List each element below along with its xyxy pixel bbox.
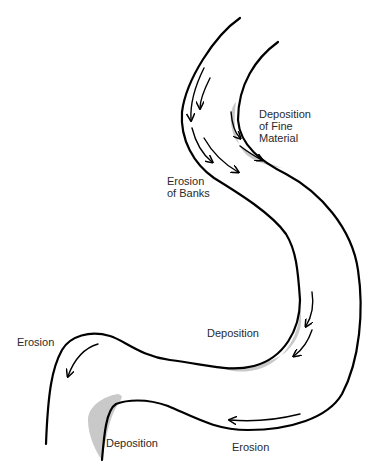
label-deposition-bottom: Deposition [106,437,158,449]
river-bank-right [102,42,361,460]
flow-arrow [230,414,300,421]
river-meander-diagram: Deposition of Fine Material Erosion of B… [0,0,374,475]
label-erosion-bottom: Erosion [232,441,269,453]
river-bank-left [46,18,300,444]
flow-arrow [204,138,238,172]
river-channel-drawing [0,0,374,475]
label-deposition-fine-material: Deposition of Fine Material [259,108,311,144]
flow-arrow [306,292,313,326]
label-erosion-of-banks: Erosion of Banks [167,175,210,199]
label-erosion-left: Erosion [17,336,54,348]
flow-arrow [200,78,210,108]
label-deposition-middle: Deposition [207,327,259,339]
flow-arrow [68,344,98,376]
